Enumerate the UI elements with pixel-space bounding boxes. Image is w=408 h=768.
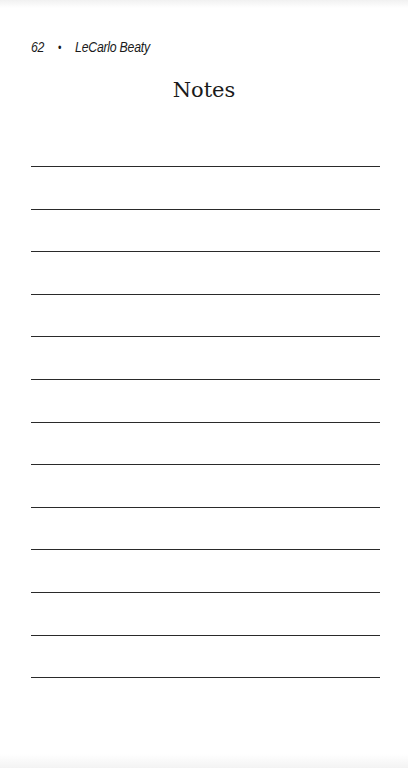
note-line bbox=[31, 635, 380, 636]
note-line bbox=[31, 464, 380, 465]
separator-bullet: • bbox=[58, 41, 61, 55]
note-line bbox=[31, 294, 380, 295]
note-line bbox=[31, 209, 380, 210]
note-line bbox=[31, 507, 380, 508]
note-line bbox=[31, 422, 380, 423]
page-number: 62 bbox=[31, 38, 44, 55]
page-title: Notes bbox=[0, 78, 408, 102]
page-edge-shadow-bottom bbox=[0, 754, 408, 768]
author-name: LeCarlo Beaty bbox=[75, 38, 150, 55]
note-line bbox=[31, 251, 380, 252]
page-edge-shadow-top bbox=[0, 0, 408, 8]
note-line bbox=[31, 166, 380, 167]
note-line bbox=[31, 677, 380, 678]
note-line bbox=[31, 336, 380, 337]
running-header: 62 • LeCarlo Beaty bbox=[31, 38, 150, 55]
note-line bbox=[31, 592, 380, 593]
note-line bbox=[31, 549, 380, 550]
note-line bbox=[31, 379, 380, 380]
